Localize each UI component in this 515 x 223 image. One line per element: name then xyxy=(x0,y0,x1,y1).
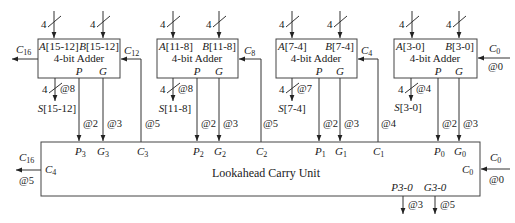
carry-in-line xyxy=(121,59,141,142)
adder-block-7-4: 4 4 A[7-4] B[7-4] 4-bit Adder P G 4 @7 S… xyxy=(276,11,397,142)
port-carry-out: C4 xyxy=(45,163,56,177)
carry-out-delay: @5 xyxy=(19,175,34,186)
sum-delay: @8 xyxy=(178,83,193,94)
bus-width-a: 4 xyxy=(41,18,47,30)
sum-label: S[7-4] xyxy=(278,102,306,114)
p-delay: @2 xyxy=(323,118,338,129)
output-p-label: P3-0 xyxy=(390,181,413,193)
bus-width-b: 4 xyxy=(327,18,333,30)
g-delay: @3 xyxy=(344,118,359,129)
output-g-label: G3-0 xyxy=(424,181,447,193)
input-a-label: A[3-0] xyxy=(395,40,425,52)
port-g0: G0 xyxy=(454,145,466,159)
carry-in-label: C12 xyxy=(124,44,139,58)
adder-title: 4-bit Adder xyxy=(291,52,342,64)
g-delay: @3 xyxy=(463,118,478,129)
carry-in-delay: @4 xyxy=(381,118,397,129)
bus-width-a: 4 xyxy=(279,18,285,30)
port-p2: P2 xyxy=(192,145,204,159)
port-g3: G3 xyxy=(97,145,109,159)
sum-width: 4 xyxy=(160,83,166,95)
sum-delay: @4 xyxy=(416,83,432,94)
g-port-label: G xyxy=(215,65,223,77)
adder-block-3-0: 4 4 A[3-0] B[3-0] 4-bit Adder P G 4 @4 S… xyxy=(394,11,510,141)
input-b-label: B[11-8] xyxy=(202,40,236,52)
carry-in-label: C8 xyxy=(244,44,255,58)
bus-width-a: 4 xyxy=(160,18,166,30)
carry-in-label: C0 xyxy=(490,151,501,165)
adder-title: 4-bit Adder xyxy=(410,52,461,64)
port-p1: P1 xyxy=(314,145,326,159)
input-b-label: B[3-0] xyxy=(445,40,474,52)
port-c1: C1 xyxy=(373,145,384,159)
adder-title: 4-bit Adder xyxy=(172,52,223,64)
bus-width-b: 4 xyxy=(446,18,452,30)
p-delay: @2 xyxy=(83,118,98,129)
sum-label: S[15-12] xyxy=(38,102,77,114)
sum-width: 4 xyxy=(279,83,285,95)
sum-width: 4 xyxy=(398,83,404,95)
carry-in-line xyxy=(358,59,378,142)
adder-block-11-8: 4 4 A[11-8] B[11-8] 4-bit Adder P G 4 @8… xyxy=(157,11,278,142)
carry-in-delay: @0 xyxy=(489,174,504,185)
lookahead-carry-unit: Lookahead Carry Unit P3 G3 C3 P2 G2 C2 P… xyxy=(16,142,510,214)
sum-delay: @8 xyxy=(60,83,75,94)
carry-lookahead-adder-diagram: 4 4 A[15-12] B[15-12] 4-bit Adder P G 4 … xyxy=(0,0,515,223)
carry-in-delay: @5 xyxy=(263,118,278,129)
input-b-label: B[7-4] xyxy=(325,40,354,52)
g-delay: @3 xyxy=(107,118,122,129)
p-delay: @2 xyxy=(201,118,216,129)
carry-in-delay: @0 xyxy=(488,61,503,72)
input-a-label: A[15-12] xyxy=(38,40,79,52)
port-g2: G2 xyxy=(214,145,226,159)
adder-block-15-12: 4 4 A[15-12] B[15-12] 4-bit Adder P G 4 … xyxy=(12,11,160,142)
carry-in-label: C4 xyxy=(361,44,372,58)
port-g1: G1 xyxy=(335,145,347,159)
carry-in-label: C0 xyxy=(489,42,500,56)
output-p-delay: @3 xyxy=(408,199,423,210)
lookahead-title: Lookahead Carry Unit xyxy=(212,166,321,180)
output-g-delay: @5 xyxy=(440,199,455,210)
carry-out-label: C16 xyxy=(16,43,31,57)
adder-title: 4-bit Adder xyxy=(54,52,105,64)
p-port-label: P xyxy=(315,65,323,77)
input-a-label: A[7-4] xyxy=(277,40,307,52)
port-p0: P0 xyxy=(433,145,445,159)
p-port-label: P xyxy=(434,65,442,77)
p-port-label: P xyxy=(75,65,83,77)
sum-label: S[3-0] xyxy=(394,101,422,113)
input-b-label: B[15-12] xyxy=(79,40,119,52)
carry-in-delay: @5 xyxy=(145,118,160,129)
p-port-label: P xyxy=(193,65,201,77)
sum-label: S[11-8] xyxy=(159,102,192,114)
port-p3: P3 xyxy=(74,145,86,159)
input-a-label: A[11-8] xyxy=(158,40,193,52)
g-port-label: G xyxy=(455,65,463,77)
carry-out-label: C16 xyxy=(19,151,34,165)
carry-in-line xyxy=(239,59,261,142)
sum-delay: @7 xyxy=(297,83,312,94)
sum-width: 4 xyxy=(42,83,48,95)
port-c2: C2 xyxy=(256,145,267,159)
port-carry-in: C0 xyxy=(462,163,473,177)
bus-width-b: 4 xyxy=(90,18,96,30)
bus-width-a: 4 xyxy=(399,18,405,30)
g-port-label: G xyxy=(99,65,107,77)
port-c3: C3 xyxy=(137,145,148,159)
g-port-label: G xyxy=(336,65,344,77)
bus-width-b: 4 xyxy=(206,18,212,30)
p-delay: @2 xyxy=(442,118,457,129)
g-delay: @3 xyxy=(223,118,238,129)
